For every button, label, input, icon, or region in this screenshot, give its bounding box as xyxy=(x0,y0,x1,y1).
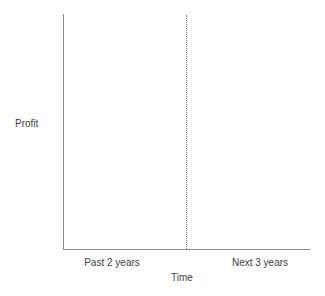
x-axis-label-past: Past 2 years xyxy=(84,257,140,269)
present-divider-dotted-line xyxy=(186,15,187,249)
y-axis-line xyxy=(63,14,64,250)
y-axis-title: Profit xyxy=(15,118,38,130)
x-axis-title: Time xyxy=(171,272,193,284)
profit-over-time-chart: Profit Past 2 years Next 3 years Time xyxy=(0,0,325,296)
x-axis-label-next: Next 3 years xyxy=(232,257,288,269)
x-axis-line xyxy=(63,249,310,250)
